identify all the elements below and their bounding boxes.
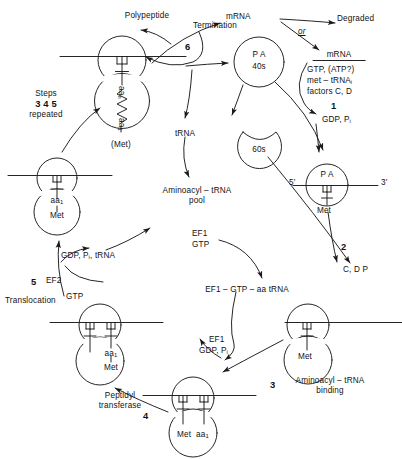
label-ef1: EF1 xyxy=(192,229,207,239)
ribosome-peptidyl xyxy=(143,377,256,457)
arrow-to-40s xyxy=(186,63,228,66)
label-init-factors: factors C, D xyxy=(307,87,352,97)
label-met-right: Met xyxy=(298,352,312,362)
ribosome-translocated xyxy=(50,304,163,385)
label-degraded: Degraded xyxy=(337,14,374,24)
arrow-steps-repeated xyxy=(62,108,100,152)
label-steps-numbers: 3 4 5 xyxy=(35,99,57,109)
arrow-polypeptide xyxy=(141,30,171,44)
label-met-initiation: Met xyxy=(317,206,331,216)
label-peptidyl-2: transferase xyxy=(99,401,142,411)
label-translocation: Translocation xyxy=(5,296,56,306)
label-five-prime: 5′ xyxy=(289,178,295,188)
label-aa-1-top: aa1 xyxy=(114,118,126,131)
label-met-bottom: Met aa1 xyxy=(177,430,209,442)
label-trna: tRNA xyxy=(175,129,195,139)
label-polypeptide: Polypeptide xyxy=(125,11,169,21)
label-gdp-pi-release: GDP, Pi xyxy=(199,346,228,358)
arrow-degraded xyxy=(280,19,335,23)
arrow-pool-source xyxy=(106,228,150,250)
mrna-bound-40s xyxy=(293,164,378,206)
label-aminoacyl-binding-2: binding xyxy=(316,386,343,396)
label-termination: Termination xyxy=(193,21,237,31)
label-step-2: 2 xyxy=(341,242,346,252)
label-mrna-top: mRNA xyxy=(226,12,251,22)
label-40s: 40s xyxy=(252,62,266,72)
label-met-paren: (Met) xyxy=(111,140,131,150)
arrow-to-trna xyxy=(185,70,192,118)
label-init-energy: GTP, (ATP?) xyxy=(307,65,354,75)
label-40s-pa: P A xyxy=(252,50,265,60)
label-aa1-mid: aa1 xyxy=(51,196,64,208)
label-step-4: 4 xyxy=(143,411,148,421)
label-gdp-pi-init: GDP, Pi xyxy=(322,115,351,127)
label-met-mid: Met xyxy=(50,211,64,221)
label-aminoacyl-binding: Aminoacyl – tRNA xyxy=(296,376,365,386)
arrow-60s-join xyxy=(268,157,350,263)
label-step-5: 5 xyxy=(31,277,36,287)
label-gtp-ef2: GTP xyxy=(66,292,83,302)
label-60s: 60s xyxy=(252,145,266,155)
arrow-step5 xyxy=(58,241,64,296)
arrow-40s-to-60s xyxy=(232,85,243,115)
label-peptidyl: Peptidyl xyxy=(105,391,135,401)
label-aa-n: aan xyxy=(114,86,126,99)
label-or: or xyxy=(298,27,306,37)
arrow-step2 xyxy=(328,212,337,262)
label-gdp-pi-trna: GDP, Pi, tRNA xyxy=(61,251,115,263)
label-init-met-trna: met – tRNAi xyxy=(307,76,352,88)
label-mrna-initiation: mRNA xyxy=(313,50,366,61)
label-aminoacyl-pool-2: pool xyxy=(189,196,205,206)
label-gtp-ef1: GTP xyxy=(192,240,209,250)
ribosome-initiation-complex xyxy=(284,304,402,384)
arrow-gtp-in xyxy=(65,266,103,282)
label-pa-sites: P A xyxy=(320,170,333,180)
arrow-binding xyxy=(223,340,283,372)
label-step-6: 6 xyxy=(185,42,190,52)
label-step-1: 1 xyxy=(331,101,336,111)
label-step-3: 3 xyxy=(270,380,275,390)
label-cdp: C, D P xyxy=(343,265,368,275)
translation-cycle-diagram: Polypeptide Termination 6 mRNA Degraded … xyxy=(0,0,402,459)
label-ef2: EF2 xyxy=(46,276,61,286)
label-ef1-release: EF1 xyxy=(209,335,224,345)
label-steps-repeated: repeated xyxy=(29,110,63,120)
label-met-translocated: Met xyxy=(104,363,118,373)
label-ef1-gtp-aa-trna: EF1 – GTP – aa tRNA xyxy=(205,285,289,295)
label-aa1-translocated: aa1 xyxy=(105,349,118,361)
arrow-trna-to-pool xyxy=(184,137,189,177)
label-three-prime: 3′ xyxy=(381,178,387,188)
label-aminoacyl-pool: Aminoacyl – tRNA xyxy=(163,186,232,196)
arrow-ef1-charge xyxy=(219,240,262,278)
